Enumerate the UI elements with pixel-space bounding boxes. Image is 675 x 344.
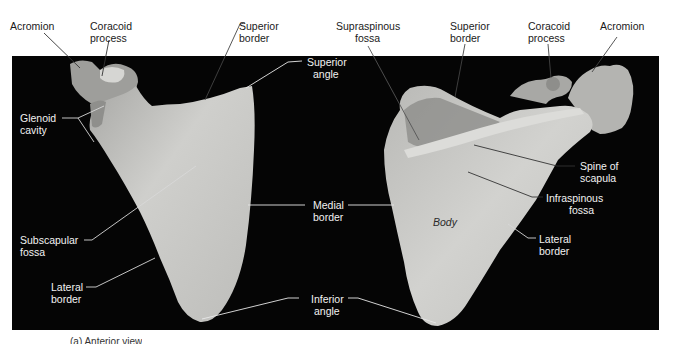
figure-caption-cropped: (a) Anterior view: [70, 336, 142, 344]
label-coracoid-process-left-line2: process: [90, 32, 127, 44]
label-acromion-right: Acromion: [600, 20, 644, 32]
label-superior-angle-line1: Superior: [307, 56, 347, 68]
label-spine-of-scapula-line1: Spine of: [580, 160, 619, 172]
label-infraspinous-fossa-line2: fossa: [569, 204, 594, 216]
label-spine-of-scapula-line2: scapula: [580, 172, 616, 184]
label-medial-border-line2: border: [313, 211, 343, 223]
label-acromion-left: Acromion: [10, 20, 54, 32]
label-subscapular-fossa-line2: fossa: [20, 246, 45, 258]
label-medial-border-line1: Medial: [313, 199, 344, 211]
label-lateral-border-right-line2: border: [539, 245, 569, 257]
label-inferior-angle-line1: Inferior: [311, 293, 344, 305]
label-subscapular-fossa-line1: Subscapular: [20, 234, 78, 246]
label-superior-border-left-line1: Superior: [239, 20, 279, 32]
scapula-figure: Acromion Coracoid process Superior borde…: [0, 0, 675, 344]
label-lateral-border-left-line2: border: [51, 293, 81, 305]
label-coracoid-process-right-line2: process: [528, 32, 565, 44]
label-lateral-border-right-line1: Lateral: [539, 233, 571, 245]
left-scapula-anterior: [70, 60, 255, 322]
left-scapula-body: [90, 86, 255, 322]
label-superior-border-right-line2: border: [450, 32, 480, 44]
label-coracoid-process-right-line1: Coracoid: [528, 20, 570, 32]
label-glenoid-cavity-line1: Glenoid: [20, 112, 56, 124]
label-supraspinous-fossa-line1: Supraspinous: [336, 20, 400, 32]
label-infraspinous-fossa-line1: Infraspinous: [546, 192, 603, 204]
label-coracoid-process-left-line1: Coracoid: [90, 20, 132, 32]
label-inferior-angle-line2: angle: [314, 305, 340, 317]
label-superior-angle-line2: angle: [313, 68, 339, 80]
label-superior-border-left-line2: border: [239, 32, 269, 44]
right-coracoid-shape: [510, 76, 572, 104]
label-superior-border-right-line1: Superior: [450, 20, 490, 32]
label-glenoid-cavity-line2: cavity: [20, 124, 47, 136]
label-supraspinous-fossa-line2: fossa: [355, 32, 380, 44]
label-body: Body: [433, 216, 457, 228]
label-lateral-border-left-line1: Lateral: [51, 281, 83, 293]
